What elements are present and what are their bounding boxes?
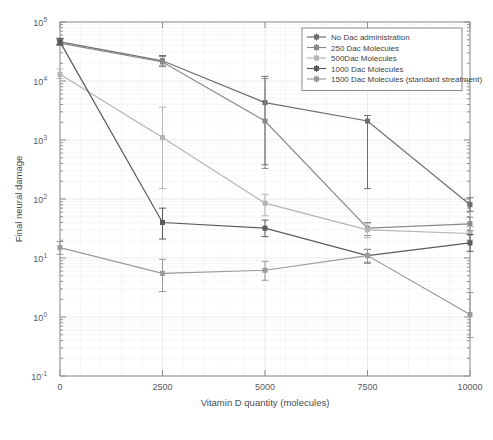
y-tick-exponent: 2 xyxy=(43,193,47,200)
data-point xyxy=(161,60,165,64)
data-point xyxy=(468,203,472,207)
x-tick-label: 7500 xyxy=(357,382,377,392)
x-tick-label: 0 xyxy=(57,382,62,392)
y-tick-label: 101 xyxy=(33,252,47,264)
data-point xyxy=(58,40,62,44)
x-axis-title: Vitamin D quantity (molecules) xyxy=(201,397,330,408)
y-axis-title: Final neural damage xyxy=(13,156,24,243)
data-point xyxy=(366,228,370,232)
y-tick-label: 10-1 xyxy=(31,370,47,382)
data-point xyxy=(366,254,370,258)
x-tick-label: 10000 xyxy=(457,382,482,392)
data-point xyxy=(366,119,370,123)
legend-label-0: No Dac administration xyxy=(331,33,410,42)
legend-marker-0 xyxy=(315,35,319,39)
data-point xyxy=(161,220,165,224)
y-tick-exponent: 4 xyxy=(43,75,47,82)
legend-label-3: 1000 Dac Molecules xyxy=(331,65,403,74)
data-point xyxy=(468,241,472,245)
data-point xyxy=(263,226,267,230)
chart-svg: 10-1100101102103104105025005000750010000… xyxy=(0,0,493,440)
x-tick-label: 5000 xyxy=(255,382,275,392)
y-tick-label: 103 xyxy=(33,134,47,146)
data-point xyxy=(468,222,472,226)
x-tick-label: 2500 xyxy=(152,382,172,392)
chart-figure: 10-1100101102103104105025005000750010000… xyxy=(0,0,493,440)
y-tick-exponent: 3 xyxy=(43,134,47,141)
legend-marker-3 xyxy=(315,67,319,71)
y-tick-exponent: 0 xyxy=(43,311,47,318)
legend-label-4: 1500 Dac Molecules (standard streatment) xyxy=(331,75,483,84)
data-point xyxy=(161,136,165,140)
legend-label-2: 500Dac Molecules xyxy=(331,54,397,63)
legend-marker-2 xyxy=(315,56,319,60)
y-tick-exponent: 5 xyxy=(43,16,47,23)
data-point xyxy=(58,72,62,76)
data-point xyxy=(468,313,472,317)
legend-label-1: 250 Dac Molecules xyxy=(331,44,399,53)
legend: No Dac administration250 Dac Molecules50… xyxy=(302,28,483,91)
data-point xyxy=(263,201,267,205)
data-point xyxy=(161,271,165,275)
data-point xyxy=(58,246,62,250)
y-tick-exponent: -1 xyxy=(41,370,47,377)
data-point xyxy=(263,268,267,272)
y-tick-label: 105 xyxy=(33,16,47,28)
y-tick-label: 100 xyxy=(33,311,47,323)
y-tick-exponent: 1 xyxy=(43,252,47,259)
y-tick-label: 104 xyxy=(33,75,47,87)
legend-marker-4 xyxy=(315,77,319,81)
y-tick-label: 102 xyxy=(33,193,47,205)
data-point xyxy=(263,119,267,123)
legend-marker-1 xyxy=(315,46,319,50)
